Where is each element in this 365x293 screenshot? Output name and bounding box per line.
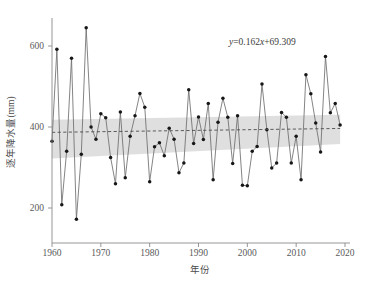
regression-equation-label: y=0.162x+69.309 — [228, 37, 296, 47]
data-point — [250, 150, 254, 154]
data-point — [109, 156, 113, 160]
data-point — [89, 125, 93, 129]
x-tick-label: 2010 — [287, 248, 306, 258]
data-point — [207, 102, 211, 106]
data-point — [84, 26, 88, 30]
x-axis-title: 年份 — [190, 264, 210, 275]
y-tick-label: 400 — [30, 122, 45, 132]
data-point — [299, 178, 303, 182]
data-point — [324, 55, 328, 59]
data-point — [211, 178, 215, 182]
data-point — [236, 114, 240, 118]
chart-canvas: 200400600 1960197019801990200020102020 y… — [0, 0, 365, 293]
data-point — [119, 110, 123, 114]
data-point — [70, 56, 74, 60]
data-point — [304, 73, 308, 77]
data-point — [75, 218, 79, 222]
precipitation-trend-chart: 200400600 1960197019801990200020102020 y… — [0, 0, 365, 293]
data-point — [275, 161, 279, 165]
data-point — [114, 182, 118, 186]
data-point — [290, 161, 294, 165]
data-point — [221, 97, 225, 101]
data-point — [329, 111, 333, 115]
data-point — [153, 145, 157, 149]
data-point — [128, 135, 132, 139]
y-axis: 200400600 — [30, 18, 52, 243]
data-point — [231, 162, 235, 166]
data-point — [182, 161, 186, 165]
data-point — [187, 88, 191, 92]
data-point — [172, 137, 176, 141]
data-point — [285, 116, 289, 120]
data-point — [255, 145, 259, 149]
data-point — [133, 114, 137, 118]
x-axis: 1960197019801990200020102020 — [43, 243, 355, 258]
x-axis-ticks: 1960197019801990200020102020 — [43, 243, 355, 258]
data-point — [280, 111, 284, 115]
data-point — [148, 180, 152, 184]
data-point — [309, 92, 313, 96]
data-point — [99, 112, 103, 116]
data-point — [192, 142, 196, 146]
data-point — [216, 120, 220, 124]
y-axis-ticks: 200400600 — [30, 41, 52, 213]
x-tick-label: 2000 — [238, 248, 257, 258]
data-point — [60, 203, 64, 207]
data-point — [314, 121, 318, 125]
data-point — [177, 171, 181, 175]
data-point — [197, 115, 201, 119]
data-point — [138, 92, 142, 96]
x-tick-label: 2020 — [336, 248, 355, 258]
data-point — [55, 47, 59, 51]
x-tick-label: 1990 — [189, 248, 208, 258]
data-point — [241, 184, 245, 188]
data-point — [65, 150, 69, 154]
data-point — [94, 137, 98, 141]
y-tick-label: 600 — [30, 41, 45, 51]
data-point — [333, 102, 337, 106]
x-tick-label: 1970 — [91, 248, 110, 258]
y-tick-label: 200 — [30, 203, 45, 213]
data-point — [104, 116, 108, 120]
data-point — [202, 138, 206, 142]
data-point — [143, 105, 147, 109]
data-point — [124, 176, 128, 180]
data-point — [294, 135, 298, 139]
x-tick-label: 1980 — [140, 248, 159, 258]
y-axis-title: 逐年降水量(mm) — [5, 96, 17, 167]
data-point — [319, 150, 323, 154]
data-point — [158, 141, 162, 145]
data-point — [270, 166, 274, 170]
data-point — [260, 82, 264, 86]
data-point — [80, 152, 84, 156]
data-point — [338, 123, 342, 127]
data-point — [163, 154, 167, 158]
data-point — [226, 116, 230, 120]
x-tick-label: 1960 — [43, 248, 62, 258]
data-point — [167, 126, 171, 130]
data-point — [246, 184, 250, 188]
